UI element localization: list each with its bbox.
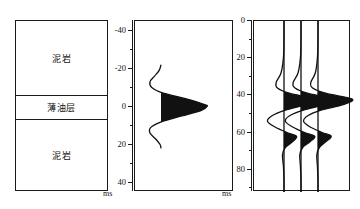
axis-tick-label: -40	[103, 25, 126, 35]
lithology-bed-thin-oil-layer: 薄油层	[16, 96, 107, 120]
lithology-bed-label: 薄油层	[47, 101, 76, 114]
axis-tick-major	[128, 106, 133, 107]
axis-tick-minor	[130, 87, 134, 88]
axis-tick-minor	[249, 150, 253, 151]
axis-tick-major	[247, 57, 252, 58]
lithology-bed-upper-mudstone: 泥岩	[16, 21, 107, 96]
axis-tick-label: 0	[103, 101, 126, 111]
axis-tick-label: 20	[103, 139, 126, 149]
axis-tick-major	[247, 20, 252, 21]
wavelet-plot	[135, 21, 234, 192]
axis-tick-minor	[249, 113, 253, 114]
axis-tick-label: 20	[222, 52, 245, 62]
axis-tick-label: -20	[103, 63, 126, 73]
wavelet-panel	[134, 20, 233, 191]
axis-tick-minor	[130, 49, 134, 50]
axis-tick-label: 60	[222, 127, 245, 137]
axis-tick-minor	[130, 125, 134, 126]
traces-unit-label: ms	[222, 189, 231, 198]
axis-tick-label: 40	[103, 177, 126, 187]
axis-tick-major	[247, 132, 252, 133]
axis-tick-minor	[249, 76, 253, 77]
axis-tick-major	[128, 68, 133, 69]
axis-tick-minor	[130, 163, 134, 164]
axis-tick-major	[128, 144, 133, 145]
synthetic-traces-panel	[253, 20, 350, 191]
axis-tick-major	[247, 169, 252, 170]
axis-tick-label: 80	[222, 164, 245, 174]
seismic-forward-model-figure: 泥岩 薄油层 泥岩 -40-2002040 ms 020406080 ms	[0, 0, 360, 209]
lithology-column-panel: 泥岩 薄油层 泥岩	[15, 20, 108, 191]
lithology-bed-label: 泥岩	[52, 52, 71, 65]
axis-tick-major	[128, 30, 133, 31]
axis-tick-major	[128, 182, 133, 183]
synthetic-traces-plot	[254, 21, 351, 192]
axis-tick-minor	[249, 39, 253, 40]
axis-tick-label: 0	[222, 15, 245, 25]
axis-tick-label: 40	[222, 89, 245, 99]
lithology-bed-lower-mudstone: 泥岩	[16, 120, 107, 190]
wavelet-unit-label: ms	[103, 189, 112, 198]
axis-tick-major	[247, 94, 252, 95]
axis-tick-minor	[249, 187, 253, 188]
lithology-bed-label: 泥岩	[52, 149, 71, 162]
